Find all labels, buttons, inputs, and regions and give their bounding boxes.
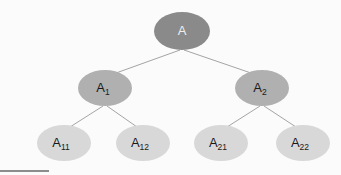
footer-rule bbox=[0, 170, 49, 172]
node-label-a: A bbox=[178, 23, 187, 38]
tree-node-a21[interactable]: A21 bbox=[194, 125, 248, 161]
tree-edge-a1-a11 bbox=[70, 106, 103, 127]
tree-edge-a-a1 bbox=[116, 50, 180, 73]
tree-edge-a2-a21 bbox=[227, 106, 260, 127]
tree-node-a2[interactable]: A2 bbox=[235, 70, 289, 106]
node-layer: AA1A2A11A12A21A22 bbox=[37, 12, 330, 161]
tree-edge-a1-a12 bbox=[107, 106, 137, 127]
tree-node-a22[interactable]: A22 bbox=[276, 125, 330, 161]
tree-node-a[interactable]: A bbox=[154, 12, 210, 50]
tree-diagram: AA1A2A11A12A21A22 bbox=[0, 0, 341, 175]
tree-node-a12[interactable]: A12 bbox=[116, 125, 170, 161]
tree-node-a1[interactable]: A1 bbox=[78, 70, 132, 106]
tree-edge-a-a2 bbox=[184, 50, 251, 73]
tree-edge-a2-a22 bbox=[264, 106, 296, 127]
tree-node-a11[interactable]: A11 bbox=[37, 125, 91, 161]
tree-canvas: AA1A2A11A12A21A22 bbox=[0, 0, 341, 175]
